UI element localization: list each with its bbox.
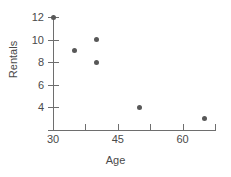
data-point — [72, 48, 77, 53]
y-axis-tick — [48, 85, 59, 86]
y-axis-tick-label-text: 4 — [0, 102, 44, 113]
data-point — [137, 105, 142, 110]
x-axis-tick — [85, 124, 86, 131]
data-point — [94, 60, 99, 65]
scatter-plot-figure: 1210864 304560 Rentals Age — [0, 0, 231, 177]
x-axis-tick — [53, 124, 54, 131]
y-axis-tick-label-text: 12 — [0, 12, 44, 23]
data-point — [51, 15, 56, 20]
x-axis-line — [48, 130, 216, 131]
x-axis-tick — [215, 124, 216, 131]
y-axis-tick — [48, 62, 59, 63]
x-axis-tick — [150, 124, 151, 131]
x-axis-tick-label: 30 — [38, 134, 68, 145]
x-axis-tick-label: 45 — [103, 134, 133, 145]
data-point — [202, 116, 207, 121]
data-point — [94, 37, 99, 42]
y-axis-tick — [48, 107, 59, 108]
x-axis-tick — [118, 124, 119, 131]
x-axis-title: Age — [0, 155, 231, 166]
y-axis-tick — [48, 40, 59, 41]
y-axis-title: Rentals — [8, 30, 19, 90]
x-axis-tick-label: 60 — [168, 134, 198, 145]
y-axis-line — [53, 15, 54, 126]
x-axis-tick — [183, 124, 184, 131]
